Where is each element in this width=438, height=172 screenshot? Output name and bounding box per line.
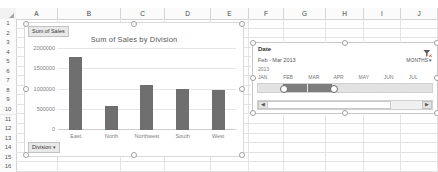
cell[interactable]	[249, 153, 284, 163]
cell[interactable]	[58, 162, 121, 172]
slicer-resize-handle-middle-right[interactable]	[434, 75, 438, 81]
row-header-16[interactable]: 16	[0, 162, 17, 172]
cell[interactable]	[284, 115, 326, 125]
slicer-year-label: 2013	[258, 66, 269, 72]
chart-resize-handle-top-right[interactable]	[239, 21, 245, 27]
cell[interactable]	[284, 134, 326, 144]
cell[interactable]	[326, 29, 364, 39]
x-axis-tick-label: South	[175, 133, 189, 139]
slicer-resize-handle-bottom-left[interactable]	[250, 110, 256, 116]
bar-group: South	[170, 49, 195, 130]
cell[interactable]	[326, 153, 364, 163]
slicer-range-label: Feb - Mar 2013	[258, 57, 296, 63]
cell[interactable]	[211, 162, 249, 172]
cell[interactable]	[401, 153, 438, 163]
cell[interactable]	[249, 115, 284, 125]
cell[interactable]	[326, 134, 364, 144]
cell[interactable]	[401, 134, 438, 144]
scroll-right-icon[interactable]: ▶	[422, 101, 432, 109]
cell[interactable]	[401, 143, 438, 153]
chart-resize-handle-middle-right[interactable]	[239, 86, 245, 92]
cell[interactable]	[284, 153, 326, 163]
y-axis-tick-label: 1500000	[34, 65, 55, 71]
slicer-resize-handle-middle-left[interactable]	[250, 75, 256, 81]
y-axis-tick-label: 1000000	[34, 86, 55, 92]
chevron-down-icon: ▾	[53, 144, 56, 150]
clear-filter-icon[interactable]	[422, 45, 433, 56]
slicer-resize-handle-top-right[interactable]	[434, 40, 438, 46]
cell[interactable]	[165, 162, 211, 172]
y-axis-tick-label: 2000000	[34, 45, 55, 51]
bar[interactable]	[140, 85, 153, 130]
cell[interactable]	[326, 143, 364, 153]
bar[interactable]	[176, 89, 189, 130]
cell[interactable]	[364, 134, 401, 144]
slicer-resize-handle-top-center[interactable]	[342, 40, 348, 46]
cell[interactable]	[16, 162, 58, 172]
cell[interactable]	[401, 19, 438, 29]
cell[interactable]	[364, 124, 401, 134]
cell[interactable]	[284, 143, 326, 153]
bar-group: North	[99, 49, 124, 130]
cell[interactable]	[401, 124, 438, 134]
bar-group: West	[206, 49, 231, 130]
x-axis-tick-label: East	[70, 133, 81, 139]
bar-group: East	[63, 49, 88, 130]
cell[interactable]	[401, 29, 438, 39]
chart-resize-handle-middle-left[interactable]	[23, 86, 29, 92]
x-axis-tick-label: West	[212, 133, 224, 139]
timeline-segment-may[interactable]	[358, 84, 383, 92]
cell[interactable]	[326, 19, 364, 29]
cell[interactable]	[121, 162, 165, 172]
slicer-timeline-track[interactable]	[257, 83, 433, 93]
cell[interactable]	[284, 162, 326, 172]
cell[interactable]	[284, 124, 326, 134]
slicer-horizontal-scrollbar[interactable]: ◀ ▶	[257, 100, 433, 110]
cell[interactable]	[364, 153, 401, 163]
y-axis-tick-label: 0	[52, 126, 55, 132]
slicer-title: Date	[258, 46, 271, 52]
cell[interactable]	[401, 162, 438, 172]
pivot-chart[interactable]: Sum of Sales Sum of Sales by Division 05…	[24, 22, 244, 157]
timeline-segment-jun[interactable]	[383, 84, 408, 92]
timeline-segment-jul[interactable]	[408, 84, 432, 92]
bar[interactable]	[105, 106, 118, 130]
cell[interactable]	[364, 162, 401, 172]
month-label-mar: MAR	[307, 74, 332, 82]
cell[interactable]	[326, 162, 364, 172]
slicer-resize-handle-bottom-center[interactable]	[342, 110, 348, 116]
chart-plot-area: 0500000100000015000002000000 EastNorthNo…	[58, 49, 236, 130]
cell[interactable]	[401, 115, 438, 125]
chart-resize-handle-bottom-right[interactable]	[239, 152, 245, 158]
slicer-level-dropdown[interactable]: MONTHS▾	[406, 57, 432, 63]
slicer-month-labels: JANFEBMARAPRMAYJUNJUL	[257, 74, 433, 82]
cell[interactable]	[249, 143, 284, 153]
bar[interactable]	[212, 90, 225, 131]
cell[interactable]	[364, 115, 401, 125]
cell[interactable]	[364, 19, 401, 29]
chart-resize-handle-bottom-center[interactable]	[131, 152, 137, 158]
x-axis-tick-label: North	[105, 133, 118, 139]
month-label-jan: JAN	[257, 74, 282, 82]
cell[interactable]	[284, 29, 326, 39]
bar[interactable]	[69, 57, 82, 130]
cell[interactable]	[249, 29, 284, 39]
chart-resize-handle-top-center[interactable]	[131, 21, 137, 27]
cell[interactable]	[326, 124, 364, 134]
cell[interactable]	[249, 19, 284, 29]
slicer-left-handle[interactable]	[280, 85, 288, 93]
cell[interactable]	[364, 29, 401, 39]
cell[interactable]	[364, 143, 401, 153]
month-label-feb: FEB	[282, 74, 307, 82]
month-label-may: MAY	[358, 74, 383, 82]
axis-field-button[interactable]: Division▾	[28, 142, 60, 153]
slicer-right-handle[interactable]	[330, 85, 338, 93]
cell[interactable]	[284, 19, 326, 29]
cell[interactable]	[249, 124, 284, 134]
cell[interactable]	[249, 162, 284, 172]
slicer-resize-handle-top-left[interactable]	[250, 40, 256, 46]
cell[interactable]	[249, 134, 284, 144]
date-timeline-slicer[interactable]: Date Feb - Mar 2013 MONTHS▾ 2013 JANFEBM…	[252, 42, 438, 114]
scrollbar-thumb[interactable]	[267, 101, 391, 109]
slicer-resize-handle-bottom-right[interactable]	[434, 110, 438, 116]
